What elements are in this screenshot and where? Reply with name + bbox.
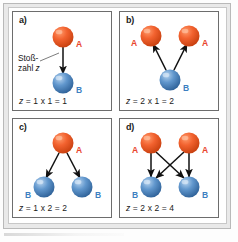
panel-b: b) A A B z = 2 x 1 = 2 xyxy=(119,11,219,111)
panel-c: c) A B B z = 1 x 2 = 2 xyxy=(12,118,112,218)
panel-grid: a) A B Stoß- zahl z z = 1 x 1 = 1 b) xyxy=(12,11,224,220)
annotation-line-1: Stoß- xyxy=(18,53,38,63)
panel-c-formula-rest: = 1 x 2 = 2 xyxy=(23,203,67,213)
panel-b-formula-rest: = 2 x 1 = 2 xyxy=(130,96,174,106)
sphere-label-b: B xyxy=(76,85,82,95)
figure-root: a) A B Stoß- zahl z z = 1 x 1 = 1 b) xyxy=(0,0,238,242)
sphere-label-a-left: A xyxy=(132,145,138,155)
panel-a-formula-rest: = 1 x 1 = 1 xyxy=(23,96,67,106)
sphere-label-b-right: B xyxy=(95,190,101,200)
panel-a: a) A B Stoß- zahl z z = 1 x 1 = 1 xyxy=(12,11,112,111)
sphere-label-a: A xyxy=(76,39,82,49)
sphere-label-b-left: B xyxy=(132,190,138,200)
annotation-variable: z xyxy=(36,63,40,73)
sphere-label-a-right: A xyxy=(202,38,208,48)
sphere-label-a-right: A xyxy=(202,145,208,155)
sphere-label-b: B xyxy=(183,83,189,93)
annotation-line-2: zahl xyxy=(18,63,36,73)
panel-d: d) A A B B z = 2 x 2 = 4 xyxy=(119,118,219,218)
panel-b-formula: z = 2 x 1 = 2 xyxy=(126,96,174,106)
sphere-label-a: A xyxy=(76,145,82,155)
panel-a-formula: z = 1 x 1 = 1 xyxy=(19,96,67,106)
sphere-label-b-left: B xyxy=(25,190,31,200)
sphere-label-a-left: A xyxy=(131,38,137,48)
sphere-label-b-right: B xyxy=(202,190,208,200)
panel-d-formula: z = 2 x 2 = 4 xyxy=(126,203,174,213)
bottom-caption-smudge xyxy=(4,233,124,236)
panel-d-formula-rest: = 2 x 2 = 4 xyxy=(130,203,174,213)
panel-c-formula: z = 1 x 2 = 2 xyxy=(19,203,67,213)
stosszahl-annotation: Stoß- zahl z xyxy=(18,53,40,73)
